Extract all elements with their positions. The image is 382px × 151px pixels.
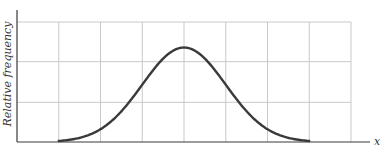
y-axis-label: Relative frequency — [1, 21, 14, 128]
x-axis-label: x — [374, 135, 381, 148]
chart: Relative frequency x — [0, 0, 382, 151]
grid-lines — [17, 22, 351, 142]
